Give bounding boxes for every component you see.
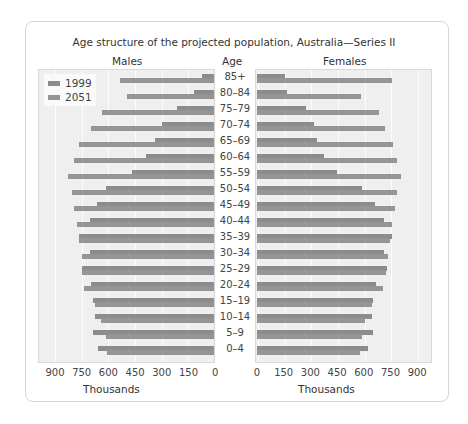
x-tick-label: 0 bbox=[254, 367, 260, 378]
females-label: Females bbox=[323, 55, 366, 67]
bar-males-2051 bbox=[101, 318, 214, 323]
age-label: 25–29 bbox=[214, 263, 256, 274]
age-label: 45–49 bbox=[214, 199, 256, 210]
bar-females-2051 bbox=[257, 126, 385, 131]
gridline bbox=[82, 70, 83, 362]
bar-males-2051 bbox=[79, 238, 214, 243]
x-tick-label: 300 bbox=[152, 367, 171, 378]
bar-males-2051 bbox=[74, 158, 214, 163]
x-tick-label: 300 bbox=[301, 367, 320, 378]
age-label: 50–54 bbox=[214, 183, 256, 194]
bar-males-2051 bbox=[68, 174, 214, 179]
x-tick-label: 150 bbox=[274, 367, 293, 378]
x-tick-label: 750 bbox=[381, 367, 400, 378]
bar-females-2051 bbox=[257, 94, 361, 99]
bar-males-2051 bbox=[127, 94, 214, 99]
age-label: 70–74 bbox=[214, 119, 256, 130]
bar-females-2051 bbox=[257, 190, 397, 195]
legend-swatch-icon bbox=[48, 95, 60, 100]
bar-females-2051 bbox=[257, 334, 362, 339]
bar-males-2051 bbox=[82, 270, 214, 275]
bar-males-2051 bbox=[120, 78, 214, 83]
bar-females-2051 bbox=[257, 174, 401, 179]
females-x-axis-label: Thousands bbox=[298, 383, 355, 395]
x-tick-label: 450 bbox=[328, 367, 347, 378]
bar-females-2051 bbox=[257, 142, 393, 147]
bar-males-2051 bbox=[106, 334, 214, 339]
age-label: 60–64 bbox=[214, 151, 256, 162]
legend-swatch-icon bbox=[48, 81, 60, 86]
x-tick-label: 150 bbox=[179, 367, 198, 378]
males-x-axis-label: Thousands bbox=[83, 383, 140, 395]
bar-males-2051 bbox=[79, 142, 214, 147]
x-tick-label: 750 bbox=[72, 367, 91, 378]
bar-males-2051 bbox=[74, 206, 214, 211]
gridline bbox=[391, 70, 392, 362]
legend-item-1999: 1999 bbox=[48, 76, 92, 90]
age-label: 15–19 bbox=[214, 295, 256, 306]
bar-females-2051 bbox=[257, 206, 395, 211]
females-plot-area bbox=[255, 69, 432, 363]
bar-males-2051 bbox=[95, 302, 214, 307]
males-label: Males bbox=[112, 55, 142, 67]
x-tick-label: 900 bbox=[408, 367, 427, 378]
x-tick-label: 600 bbox=[99, 367, 118, 378]
gridline bbox=[418, 70, 419, 362]
bar-females-2051 bbox=[257, 302, 372, 307]
bar-females-2051 bbox=[257, 238, 390, 243]
age-label: 40–44 bbox=[214, 215, 256, 226]
males-plot-area bbox=[38, 69, 215, 363]
bar-females-2051 bbox=[257, 286, 383, 291]
age-label: 85+ bbox=[214, 71, 256, 82]
bar-males-2051 bbox=[77, 222, 214, 227]
bar-females-2051 bbox=[257, 254, 388, 259]
age-label: 0–4 bbox=[214, 343, 256, 354]
x-tick-label: 0 bbox=[212, 367, 218, 378]
bar-females-2051 bbox=[257, 110, 379, 115]
age-label: 30–34 bbox=[214, 247, 256, 258]
bar-females-2051 bbox=[257, 158, 397, 163]
bar-males-2051 bbox=[91, 126, 214, 131]
age-label: 55–59 bbox=[214, 167, 256, 178]
gridline bbox=[55, 70, 56, 362]
bar-females-2051 bbox=[257, 78, 392, 83]
bar-females-2051 bbox=[257, 270, 386, 275]
bar-females-2051 bbox=[257, 350, 360, 355]
age-label: 75–79 bbox=[214, 103, 256, 114]
bar-males-2051 bbox=[84, 286, 214, 291]
bar-males-2051 bbox=[82, 254, 214, 259]
bar-females-2051 bbox=[257, 222, 392, 227]
bar-males-2051 bbox=[102, 110, 214, 115]
bar-males-2051 bbox=[72, 190, 214, 195]
age-label: 80–84 bbox=[214, 87, 256, 98]
x-tick-label: 900 bbox=[45, 367, 64, 378]
age-label: 10–14 bbox=[214, 311, 256, 322]
bar-females-2051 bbox=[257, 318, 365, 323]
age-header: Age bbox=[222, 55, 242, 67]
legend: 1999 2051 bbox=[44, 74, 96, 106]
age-label: 20–24 bbox=[214, 279, 256, 290]
x-tick-label: 450 bbox=[126, 367, 145, 378]
age-label: 35–39 bbox=[214, 231, 256, 242]
bar-males-2051 bbox=[107, 350, 214, 355]
x-tick-label: 600 bbox=[354, 367, 373, 378]
age-label: 65–69 bbox=[214, 135, 256, 146]
chart-title: Age structure of the projected populatio… bbox=[0, 36, 468, 48]
legend-item-2051: 2051 bbox=[48, 90, 92, 104]
age-label: 5–9 bbox=[214, 327, 256, 338]
